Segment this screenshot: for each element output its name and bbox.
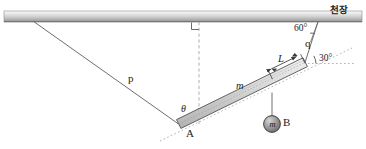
angle-60-reference-line <box>311 22 319 42</box>
point-A-label: A <box>186 128 194 139</box>
ball-B <box>264 116 281 133</box>
physics-diagram: 천장 p q θ 60° 30° m L A m B <box>0 0 366 149</box>
angle-arc-30 <box>314 56 316 64</box>
angle-30-label: 30° <box>319 54 332 64</box>
string-p-label: p <box>128 73 134 84</box>
ball-B-label: B <box>283 117 290 128</box>
rod-mass-label: m <box>236 81 244 92</box>
string-p <box>34 22 179 124</box>
diagram-canvas <box>0 0 366 149</box>
angle-arc-60 <box>310 33 314 34</box>
string-q-label: q <box>305 38 311 49</box>
angle-60-label: 60° <box>294 24 307 34</box>
ceiling-label: 천장 <box>330 5 348 15</box>
angle-theta-label: θ <box>181 104 186 114</box>
ceiling-bar <box>4 11 362 22</box>
length-L-label: L <box>278 54 284 65</box>
right-angle-marker <box>192 23 199 30</box>
